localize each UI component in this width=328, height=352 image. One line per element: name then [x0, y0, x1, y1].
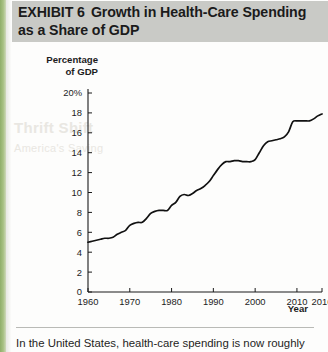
exhibit-number: EXHIBIT 6 [18, 4, 85, 20]
x-tick-label: 1970 [119, 296, 140, 307]
x-tick-label: 1980 [161, 296, 182, 307]
line-chart-plot: 20%181614121086420 196019701980199020002… [12, 46, 328, 321]
exhibit-figure: Thrift Shift America's Saving EXHIBIT 6G… [0, 0, 328, 352]
figure-caption: In the United States, health-care spendi… [16, 336, 316, 351]
y-tick-label: 6 [77, 227, 82, 238]
x-tick-label: 2000 [245, 296, 266, 307]
data-series-line [88, 114, 322, 242]
caption-divider [16, 327, 314, 328]
x-tick-label: 2010 [286, 296, 307, 307]
x-tick-label: 1990 [203, 296, 224, 307]
y-axis-group: 20%181614121086420 [63, 87, 92, 297]
x-tick-label: 2016 [312, 296, 328, 307]
page-spine-shadow [6, 0, 11, 352]
y-tick-label: 10 [72, 187, 82, 198]
x-tick-group: 1960197019801990200020102016 [78, 288, 328, 307]
page-title: EXHIBIT 6Growth in Health-Care Spending … [18, 3, 322, 39]
exhibit-header-band: EXHIBIT 6Growth in Health-Care Spending … [12, 1, 328, 42]
y-tick-label: 12 [72, 167, 82, 178]
y-tick-label: 14 [72, 147, 82, 158]
y-tick-label: 2 [77, 267, 82, 278]
x-tick-label: 1960 [78, 296, 99, 307]
y-tick-label: 4 [77, 247, 82, 258]
x-axis-group: 1960197019801990200020102016 [78, 288, 328, 307]
y-tick-label: 20% [63, 87, 82, 98]
chart-container: Percentageof GDP Year 20%181614121086420… [12, 46, 328, 321]
y-tick-label: 8 [77, 207, 82, 218]
y-tick-label: 16 [72, 127, 82, 138]
y-tick-label: 18 [72, 107, 82, 118]
